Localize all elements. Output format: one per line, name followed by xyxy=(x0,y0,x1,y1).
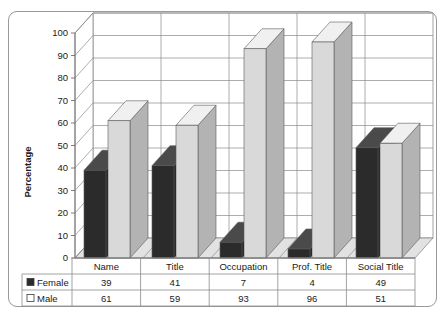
y-tick-label: 50 xyxy=(57,140,68,151)
bar-front-face xyxy=(152,166,174,258)
category-header-0: Name xyxy=(94,261,119,272)
bar-side-face xyxy=(334,22,352,258)
chart-figure: 0102030405060708090100 NameTitleOccupati… xyxy=(0,0,445,326)
y-tick-label: 80 xyxy=(57,72,68,83)
legend-label-female: Female xyxy=(37,277,69,288)
data-table-group: NameTitleOccupationProf. TitleSocial Tit… xyxy=(22,258,415,306)
y-tick-label: 20 xyxy=(57,207,68,218)
y-tick-label: 10 xyxy=(57,230,68,241)
bar-side-face xyxy=(130,101,148,258)
y-tick-label: 40 xyxy=(57,162,68,173)
y-tick-label: 70 xyxy=(57,95,68,106)
bar-side-face xyxy=(198,105,216,258)
cell-male-0: 61 xyxy=(101,293,112,304)
cell-female-2: 7 xyxy=(241,277,246,288)
bar-front-face xyxy=(356,148,378,258)
cell-male-4: 51 xyxy=(375,293,386,304)
y-tick-label: 90 xyxy=(57,50,68,61)
legend-swatch-male xyxy=(27,295,34,302)
category-header-2: Occupation xyxy=(219,261,267,272)
category-header-4: Social Title xyxy=(358,261,404,272)
bar-front-face xyxy=(312,42,334,258)
bar-male xyxy=(176,105,216,258)
category-header-3: Prof. Title xyxy=(292,261,332,272)
bar-front-face xyxy=(244,49,266,258)
cell-male-2: 93 xyxy=(238,293,249,304)
bar-chart-svg: 0102030405060708090100 NameTitleOccupati… xyxy=(0,0,445,326)
y-tick-label: 0 xyxy=(63,252,68,263)
bar-front-face xyxy=(220,242,242,258)
y-tick-label: 100 xyxy=(52,27,68,38)
bar-male xyxy=(380,123,420,258)
legend-label-male: Male xyxy=(37,293,58,304)
bar-male xyxy=(312,22,352,258)
bar-front-face xyxy=(84,170,106,258)
bar-front-face xyxy=(288,249,310,258)
bar-male xyxy=(244,29,284,258)
cell-male-1: 59 xyxy=(170,293,181,304)
bar-male xyxy=(108,101,148,258)
cell-female-0: 39 xyxy=(101,277,112,288)
cell-male-3: 96 xyxy=(307,293,318,304)
bar-front-face xyxy=(108,121,130,258)
cell-female-4: 49 xyxy=(375,277,386,288)
bar-side-face xyxy=(266,29,284,258)
legend-swatch-female xyxy=(27,279,34,286)
y-tick-label: 60 xyxy=(57,117,68,128)
bar-front-face xyxy=(176,125,198,258)
y-tick-label: 30 xyxy=(57,185,68,196)
bar-front-face xyxy=(380,143,402,258)
cell-female-3: 4 xyxy=(309,277,314,288)
y-axis-title: Percentage xyxy=(22,146,33,197)
category-header-1: Title xyxy=(166,261,184,272)
cell-female-1: 41 xyxy=(170,277,181,288)
bar-side-face xyxy=(402,123,420,258)
